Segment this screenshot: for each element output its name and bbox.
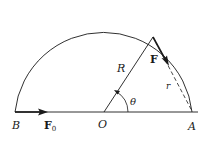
label-o: O: [98, 118, 107, 131]
label-r-radius: R: [116, 62, 125, 75]
semicircle-arc: [15, 32, 192, 112]
label-theta: θ: [130, 96, 136, 107]
theta-arc: [116, 92, 128, 113]
label-a: A: [187, 120, 196, 133]
label-b: B: [11, 119, 20, 132]
semicircle-diagram: B F0 O A R F r θ: [0, 0, 208, 141]
label-r-chord: r: [166, 81, 171, 91]
label-f0: F0: [44, 119, 56, 133]
label-f0-sub: 0: [52, 125, 56, 133]
radius-line: [104, 37, 153, 112]
label-f: F: [150, 53, 158, 66]
label-f0-main: F: [44, 119, 52, 132]
